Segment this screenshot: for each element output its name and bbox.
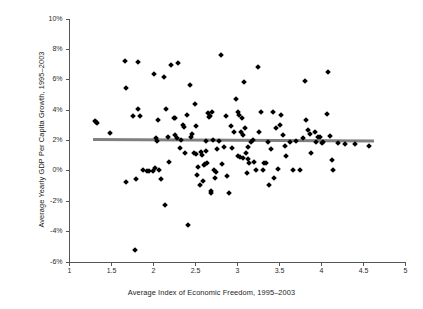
data-point bbox=[175, 60, 181, 66]
data-point bbox=[189, 131, 195, 137]
y-axis-tick bbox=[66, 79, 70, 80]
x-axis-tick bbox=[405, 262, 406, 266]
x-axis-tick bbox=[195, 262, 196, 266]
y-axis-tick bbox=[66, 110, 70, 111]
x-axis-tick-label: 4 bbox=[307, 267, 337, 274]
y-axis-tick-label: 4% bbox=[30, 106, 63, 113]
data-point bbox=[154, 138, 160, 144]
data-point bbox=[185, 222, 191, 228]
x-axis-tick bbox=[279, 262, 280, 266]
y-axis-tick bbox=[66, 201, 70, 202]
data-point bbox=[184, 112, 190, 118]
data-point bbox=[251, 159, 257, 165]
data-point bbox=[244, 170, 250, 176]
y-axis-tick-label: 6% bbox=[30, 75, 63, 82]
data-point bbox=[239, 116, 245, 122]
y-axis-tick bbox=[66, 170, 70, 171]
data-point bbox=[193, 123, 199, 129]
y-axis-tick bbox=[66, 140, 70, 141]
data-point bbox=[137, 113, 143, 119]
data-point bbox=[94, 120, 100, 126]
data-point bbox=[223, 113, 229, 119]
data-point bbox=[177, 145, 183, 151]
x-axis-tick bbox=[153, 262, 154, 266]
x-axis-tick bbox=[363, 262, 364, 266]
y-axis-tick-label: 8% bbox=[30, 45, 63, 52]
y-axis-tick bbox=[66, 19, 70, 20]
data-point bbox=[107, 130, 113, 136]
data-point bbox=[135, 59, 141, 65]
y-axis-tick-label: 10% bbox=[30, 15, 63, 22]
data-point bbox=[221, 144, 227, 150]
data-point bbox=[213, 169, 219, 175]
data-point bbox=[157, 167, 163, 173]
data-point bbox=[256, 129, 262, 135]
data-point bbox=[325, 69, 331, 75]
data-point bbox=[309, 151, 315, 157]
x-axis-tick-label: 3 bbox=[223, 267, 253, 274]
data-point bbox=[302, 78, 308, 84]
data-point bbox=[183, 150, 189, 156]
data-point bbox=[155, 117, 161, 123]
data-point bbox=[267, 182, 273, 188]
data-point bbox=[275, 167, 281, 173]
data-point bbox=[278, 113, 284, 119]
data-point bbox=[163, 106, 169, 112]
data-point bbox=[330, 167, 336, 173]
x-axis-tick-label: 2 bbox=[139, 267, 169, 274]
data-point bbox=[136, 106, 142, 112]
scatter-plot-figure: Average Yearly GDP Per Capita Growth, 19… bbox=[0, 0, 423, 309]
y-axis-tick bbox=[66, 49, 70, 50]
data-point bbox=[130, 113, 136, 119]
data-point bbox=[270, 110, 276, 116]
data-point bbox=[220, 161, 226, 167]
data-point bbox=[168, 62, 174, 68]
y-axis-tick-label: -6% bbox=[30, 258, 63, 265]
data-point bbox=[304, 117, 310, 123]
data-point bbox=[290, 167, 296, 173]
data-point bbox=[122, 58, 128, 64]
data-point bbox=[260, 167, 266, 173]
data-point bbox=[151, 72, 157, 78]
data-point bbox=[245, 144, 251, 150]
data-point bbox=[230, 145, 236, 151]
data-point bbox=[225, 173, 231, 179]
data-point bbox=[231, 129, 237, 135]
data-point bbox=[226, 190, 232, 196]
data-point bbox=[212, 176, 218, 182]
data-point bbox=[240, 132, 246, 138]
data-point bbox=[214, 146, 220, 152]
data-point bbox=[258, 109, 264, 115]
data-point bbox=[218, 53, 224, 59]
y-axis-tick-label: -4% bbox=[30, 227, 63, 234]
data-point bbox=[200, 178, 206, 184]
x-axis-tick-label: 3.5 bbox=[265, 267, 295, 274]
data-point bbox=[192, 101, 198, 107]
x-axis-tick-label: 1.5 bbox=[97, 267, 127, 274]
data-point bbox=[162, 202, 168, 208]
data-point bbox=[195, 164, 201, 170]
x-axis-tick-label: 4.5 bbox=[349, 267, 379, 274]
data-point bbox=[228, 123, 234, 129]
x-axis-tick bbox=[321, 262, 322, 266]
x-axis-tick bbox=[237, 262, 238, 266]
plot-area: -6%-4%-2%0%2%4%6%8%10%11.522.533.544.55 bbox=[0, 0, 423, 309]
regression-trend-line bbox=[93, 138, 374, 142]
data-point bbox=[327, 133, 333, 139]
data-point bbox=[287, 139, 293, 145]
data-point bbox=[352, 141, 358, 147]
data-point bbox=[366, 143, 372, 149]
data-point bbox=[268, 146, 274, 152]
data-point bbox=[204, 148, 210, 154]
y-axis-tick-label: 0% bbox=[30, 166, 63, 173]
data-point bbox=[161, 75, 167, 81]
data-point bbox=[123, 179, 129, 185]
data-point bbox=[265, 139, 271, 145]
data-point bbox=[329, 157, 335, 163]
x-axis-tick bbox=[69, 262, 70, 266]
x-axis-tick-label: 1 bbox=[55, 267, 85, 274]
data-point bbox=[253, 167, 259, 173]
data-point bbox=[255, 64, 261, 70]
data-point bbox=[123, 85, 129, 91]
x-axis-tick-label: 2.5 bbox=[181, 267, 211, 274]
